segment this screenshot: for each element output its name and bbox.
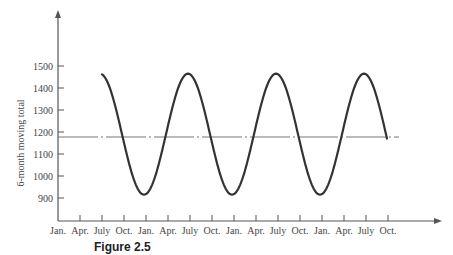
y-tick-label: 1300 [33, 105, 53, 116]
x-tick-label: July [94, 225, 111, 236]
y-axis: 900100011001200130014001500 [33, 10, 64, 221]
x-tick-label: Apr. [159, 225, 177, 236]
x-axis: Jan.Apr.JulyOct.Jan.Apr.JulyOct.Jan.Apr.… [50, 215, 442, 236]
y-tick-label: 1200 [33, 127, 53, 138]
y-tick-label: 1100 [33, 149, 53, 160]
x-tick-label: Jan. [138, 225, 154, 236]
x-tick-label: Oct. [292, 225, 309, 236]
y-tick-label: 1000 [33, 171, 53, 182]
y-axis-label: 6-month moving total [15, 99, 26, 186]
figure-number: Figure 2.5 [94, 240, 151, 254]
x-tick-label: Jan. [314, 225, 330, 236]
x-axis-arrow-icon [434, 218, 442, 224]
x-tick-label: Apr. [71, 225, 89, 236]
y-tick-label: 900 [38, 193, 53, 204]
x-tick-label: Apr. [335, 225, 353, 236]
y-axis-arrow-icon [55, 10, 61, 18]
figure-caption: Figure 2.5 [94, 239, 151, 255]
x-tick-label: Oct. [380, 225, 397, 236]
y-tick-label: 1400 [33, 83, 53, 94]
x-tick-label: Jan. [50, 225, 66, 236]
x-tick-label: Apr. [247, 225, 265, 236]
x-tick-label: Oct. [116, 225, 133, 236]
x-tick-label: July [270, 225, 287, 236]
x-tick-label: Oct. [204, 225, 221, 236]
x-tick-label: July [358, 225, 375, 236]
moving-total-curve [102, 74, 387, 195]
x-tick-label: Jan. [226, 225, 242, 236]
y-tick-label: 1500 [33, 61, 53, 72]
x-tick-label: July [182, 225, 199, 236]
